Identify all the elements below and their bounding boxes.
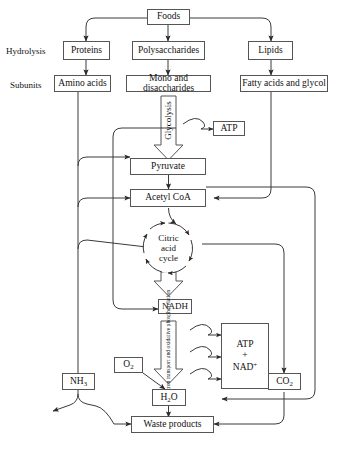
- edge-etc-atp-1: [190, 324, 221, 335]
- plus-label: +: [242, 350, 247, 361]
- edge-glycolysis-atp: [183, 118, 213, 129]
- node-water[interactable]: H2O: [152, 389, 186, 406]
- cycle-line-2: acid: [161, 243, 176, 253]
- node-oxygen[interactable]: O2: [114, 357, 143, 373]
- node-lipids[interactable]: Lipids: [248, 41, 293, 60]
- edge-etc-atp-2: [190, 346, 221, 357]
- edge-fatty-acetylcoa: [214, 87, 271, 198]
- edge-co2-waste: [214, 392, 284, 424]
- node-foods[interactable]: Foods: [147, 9, 190, 25]
- block-arrow-electron-transport: [154, 321, 183, 384]
- node-fatty-acids-and-glycol[interactable]: Fatty acids and glycol: [240, 75, 328, 92]
- nad-label: NAD+: [233, 361, 257, 373]
- node-atp-glycolysis[interactable]: ATP: [213, 121, 245, 136]
- edge-amino-pyruvate: [78, 157, 130, 166]
- edge-etc-atp-3: [190, 368, 221, 379]
- node-pyruvate[interactable]: Pyruvate: [130, 158, 206, 175]
- atp-nad-stack: ATP + NAD+: [233, 339, 257, 373]
- node-polysaccharides[interactable]: Polysaccharides: [132, 41, 205, 60]
- node-ammonia[interactable]: NH3: [62, 373, 95, 390]
- edge-nh3-waste: [78, 394, 131, 424]
- oxygen-formula: O2: [123, 360, 133, 370]
- block-arrow-cycle-nadh: [154, 272, 183, 296]
- node-nadh[interactable]: NADH: [158, 299, 192, 314]
- cycle-line-3: cycle: [159, 253, 178, 263]
- edge-acetylcoa-cycle: [169, 208, 177, 224]
- node-carbon-dioxide[interactable]: CO2: [268, 373, 301, 390]
- edge-amino-acetylcoa: [78, 198, 130, 207]
- stage-label-hydrolysis: Hydrolysis: [6, 41, 68, 60]
- node-acetyl-coa[interactable]: Acetyl CoA: [130, 189, 206, 207]
- atp-label: ATP: [237, 339, 254, 350]
- cycle-line-1: Citric: [158, 233, 179, 243]
- water-formula: H2O: [160, 393, 177, 403]
- node-proteins[interactable]: Proteins: [63, 41, 110, 60]
- node-mono-and-disaccharides[interactable]: Mono and disaccharides: [126, 75, 211, 92]
- node-atp-nad[interactable]: ATP + NAD+: [221, 323, 269, 389]
- carbon-dioxide-formula: CO2: [276, 377, 293, 387]
- edge-foods-lipids: [190, 18, 271, 41]
- ammonia-formula: NH3: [70, 377, 87, 387]
- label-citric-acid-cycle: Citric acid cycle: [146, 231, 191, 265]
- node-waste-products[interactable]: Waste products: [131, 416, 214, 433]
- edge-foods-proteins: [86, 18, 147, 41]
- node-amino-acids[interactable]: Amino acids: [54, 75, 111, 92]
